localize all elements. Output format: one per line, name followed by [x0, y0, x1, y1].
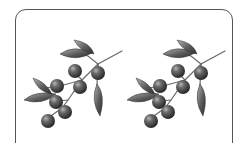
olive-branch-left: [24, 40, 122, 128]
olive-branches-illustration: [0, 0, 248, 143]
olive-branch-right: [127, 40, 225, 128]
